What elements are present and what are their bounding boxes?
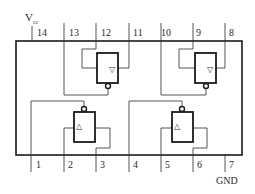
pin-8-label: 8 — [229, 27, 234, 38]
pin-6-label: 6 — [197, 159, 202, 170]
svg-text:V: V — [25, 11, 33, 23]
gnd-label: GND — [216, 175, 238, 186]
enable-bubble — [82, 107, 87, 112]
vcc-label: V cc — [25, 11, 39, 25]
down-triangle-icon: ▽ — [207, 65, 214, 74]
top-pin-labels: 14 13 12 11 10 9 8 — [37, 27, 234, 38]
ic-pinout-diagram: V cc 14 13 12 11 10 9 8 1 2 3 4 5 — [0, 0, 255, 194]
pin-3-label: 3 — [100, 159, 105, 170]
bottom-pin-leads — [31, 155, 225, 172]
pin-12-label: 12 — [101, 27, 111, 38]
pin-10-label: 10 — [161, 27, 171, 38]
enable-bubble — [204, 84, 209, 89]
pin-9-label: 9 — [196, 27, 201, 38]
up-triangle-icon: △ — [174, 122, 181, 131]
pin-2-label: 2 — [68, 159, 73, 170]
down-triangle-icon: ▽ — [109, 65, 116, 74]
bottom-pin-labels: 1 2 3 4 5 6 7 — [36, 159, 234, 170]
pin-4-label: 4 — [133, 159, 138, 170]
up-triangle-icon: △ — [76, 122, 83, 131]
gate-top-right: ▽ — [161, 41, 225, 95]
pin-13-label: 13 — [69, 27, 79, 38]
pin-1-label: 1 — [36, 159, 41, 170]
gate-top-left: ▽ — [64, 41, 129, 95]
enable-bubble — [180, 107, 185, 112]
pin-7-label: 7 — [229, 159, 234, 170]
pin-5-label: 5 — [165, 159, 170, 170]
gate-bottom-right: △ — [129, 101, 207, 155]
enable-bubble — [106, 84, 111, 89]
gate-bottom-left: △ — [31, 101, 110, 155]
pin-14-label: 14 — [37, 27, 47, 38]
pin-11-label: 11 — [133, 27, 143, 38]
svg-text:cc: cc — [33, 19, 39, 25]
